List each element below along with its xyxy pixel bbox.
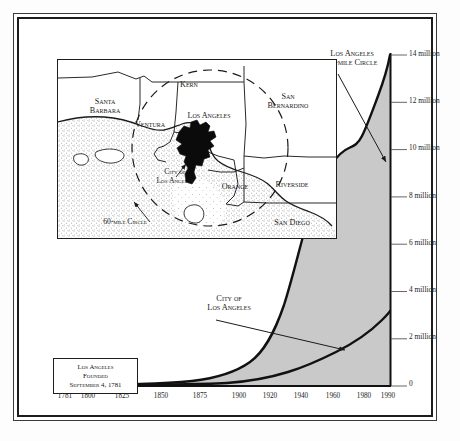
county-label-santa-barbara: Santa Barbara bbox=[74, 98, 136, 115]
annotation-city-of-los-angeles: City of Los Angeles bbox=[190, 294, 268, 313]
county-label-san-diego: San Diego bbox=[263, 218, 321, 227]
county-label-kern: Kern bbox=[163, 80, 215, 89]
y-tick-label-10m: 10 million bbox=[409, 143, 440, 152]
founding-note-line1: Los Angeles bbox=[56, 362, 135, 371]
y-tick-marks bbox=[391, 55, 407, 386]
y-tick-label-2m: 2 million bbox=[409, 332, 436, 341]
figure-root: 14 million 12 million 10 million 8 milli… bbox=[0, 0, 460, 441]
y-tick-label-8m: 8 million bbox=[409, 191, 436, 200]
founding-note-box: Los Angeles Founded September 4, 1781 bbox=[53, 358, 138, 394]
map-inset: Santa Barbara Kern Ventura Los Angeles S… bbox=[57, 59, 337, 239]
y-tick-label-14m: 14 million bbox=[409, 49, 440, 58]
y-tick-label-4m: 4 million bbox=[409, 285, 436, 294]
county-label-san-bernardino: San Bernardino bbox=[250, 93, 326, 110]
county-label-san-bernardino-line2: Bernardino bbox=[250, 102, 326, 111]
map-annotation-city-line2: Los Angeles bbox=[144, 177, 206, 186]
annotation-city-of-los-angeles-line1: City of bbox=[190, 294, 268, 303]
x-tick-label-1980: 1980 bbox=[353, 392, 375, 400]
map-annotation-sixty-mile-circle: 60-mile Circle bbox=[86, 218, 164, 227]
map-annotation-city-of-los-angeles: City of Los Angeles bbox=[144, 168, 206, 185]
x-tick-label-1900: 1900 bbox=[228, 392, 250, 400]
county-label-santa-barbara-line2: Barbara bbox=[74, 107, 136, 116]
county-label-ventura: Ventura bbox=[124, 120, 176, 129]
county-label-los-angeles: Los Angeles bbox=[176, 111, 242, 120]
x-tick-label-1875: 1875 bbox=[189, 392, 211, 400]
y-tick-label-6m: 6 million bbox=[409, 238, 436, 247]
annotation-la-60-mile-circle-line1: Los Angeles bbox=[310, 49, 394, 58]
founding-note-line3: September 4, 1781 bbox=[56, 380, 135, 389]
channel-island-1 bbox=[74, 154, 89, 165]
county-label-orange: Orange bbox=[210, 182, 260, 191]
plot-area: 14 million 12 million 10 million 8 milli… bbox=[22, 22, 428, 412]
channel-island-3 bbox=[184, 205, 204, 223]
x-tick-label-1850: 1850 bbox=[150, 392, 172, 400]
x-tick-label-1990: 1990 bbox=[377, 392, 399, 400]
annotation-city-of-los-angeles-line2: Los Angeles bbox=[190, 303, 268, 312]
x-tick-label-1920: 1920 bbox=[259, 392, 281, 400]
x-tick-label-1960: 1960 bbox=[322, 392, 344, 400]
county-label-riverside: Riverside bbox=[263, 180, 321, 189]
y-tick-label-0: 0 bbox=[409, 379, 413, 388]
x-tick-label-1940: 1940 bbox=[290, 392, 312, 400]
y-tick-label-12m: 12 million bbox=[409, 96, 440, 105]
founding-note-line2: Founded bbox=[56, 371, 135, 380]
